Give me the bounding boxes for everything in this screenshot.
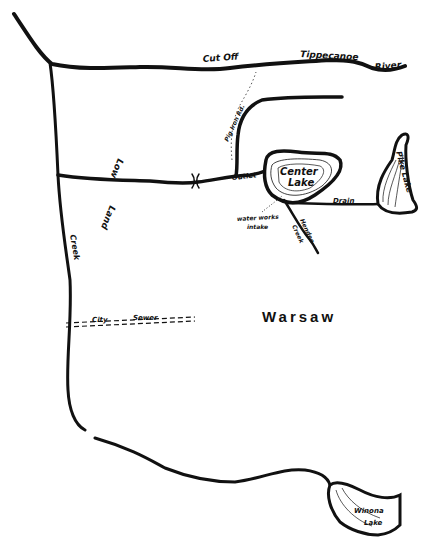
warsaw-area-map: Cut Off Tippecanoe River Pig Iron Rd. Lo… — [0, 0, 427, 553]
city-sewer — [66, 317, 195, 327]
label-center-lake-1: Center — [280, 166, 319, 177]
label-low: Low — [108, 157, 125, 180]
label-center-lake-2: Lake — [288, 177, 314, 188]
label-warsaw: Warsaw — [262, 308, 336, 325]
label-creek: Creek — [68, 234, 81, 262]
label-sewer: Sewer — [133, 314, 158, 322]
hendee-creek — [284, 200, 318, 253]
label-intake: intake — [247, 223, 268, 230]
label-city: City — [92, 316, 108, 324]
pike-lake — [377, 134, 416, 213]
label-road: Pig Iron Rd. — [223, 103, 247, 142]
label-drain: Drain — [333, 197, 354, 205]
creek-south — [95, 438, 330, 485]
label-land: Land — [99, 204, 118, 231]
label-outlet: Outlet — [231, 171, 257, 182]
label-winona-2: Lake — [364, 519, 383, 527]
label-cut-off: Cut Off — [202, 51, 240, 64]
label-water-works: water works — [237, 213, 279, 222]
label-winona-1: Winona — [354, 507, 384, 515]
intake-line — [262, 196, 282, 212]
